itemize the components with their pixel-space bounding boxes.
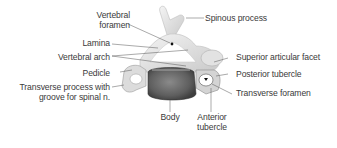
label-superior-articular-facet: Superior articular facet <box>236 52 320 62</box>
label-transverse-foramen: Transverse foramen <box>236 88 311 98</box>
vertebral-body-shape <box>148 68 196 101</box>
label-lamina: Lamina <box>60 38 110 48</box>
label-body: Body <box>155 112 185 122</box>
label-spinous-process: Spinous process <box>205 13 267 23</box>
label-transverse-process: Transverse process with groove for spina… <box>0 82 110 102</box>
label-transverse-process-line2: groove for spinal n. <box>0 92 110 102</box>
label-vertebral-arch: Vertebral arch <box>30 52 110 62</box>
label-vertebral-foramen-line2: foramen <box>70 20 130 30</box>
label-vertebral-foramen-line1: Vertebral <box>70 10 130 20</box>
superior-articular-facet-shape <box>201 50 223 66</box>
label-transverse-process-line1: Transverse process with <box>0 82 110 92</box>
label-pedicle: Pedicle <box>60 68 110 78</box>
label-anterior-tubercle-line2: tubercle <box>192 122 232 132</box>
label-anterior-tubercle: Anterior tubercle <box>192 112 232 132</box>
label-vertebral-foramen: Vertebral foramen <box>70 10 130 30</box>
label-posterior-tubercle: Posterior tubercle <box>236 69 302 79</box>
label-anterior-tubercle-line1: Anterior <box>192 112 232 122</box>
spinous-process-shape <box>160 6 184 38</box>
